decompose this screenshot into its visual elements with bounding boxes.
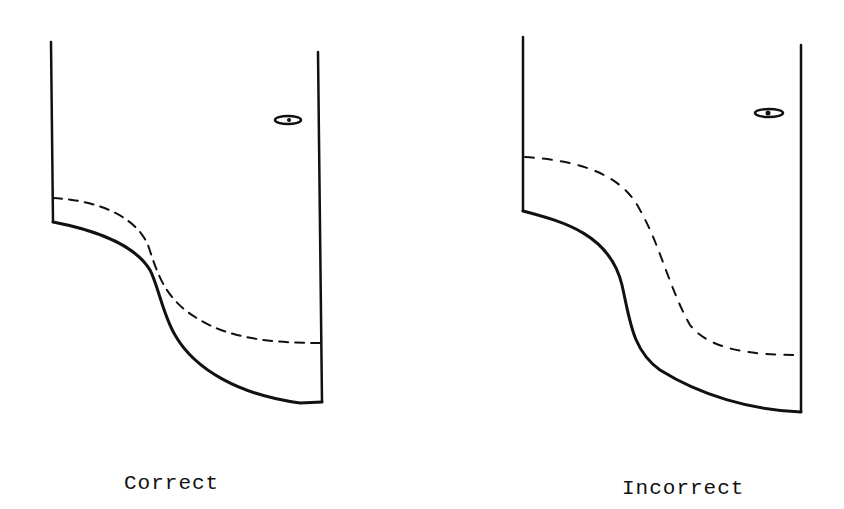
dashed-reference-curve <box>525 157 801 355</box>
caption-correct: Correct <box>124 472 219 495</box>
right-wall <box>318 52 322 402</box>
dashed-reference-curve <box>53 198 320 343</box>
eye-icon <box>755 109 783 117</box>
eye-icon <box>275 116 301 124</box>
panel-incorrect <box>523 37 801 412</box>
solid-profile-curve <box>523 211 801 412</box>
panel-correct <box>51 42 322 403</box>
caption-incorrect: Incorrect <box>622 477 744 500</box>
left-wall <box>51 42 53 222</box>
solid-profile-curve <box>53 222 322 403</box>
comparison-diagram <box>0 0 844 509</box>
